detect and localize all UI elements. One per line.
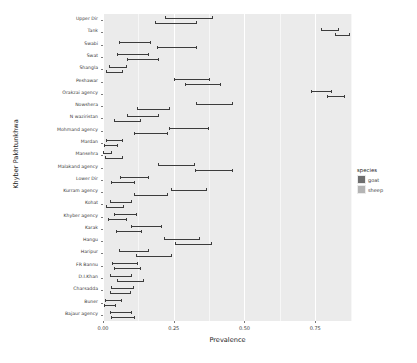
- error-bar: [104, 145, 117, 146]
- error-bar-cap: [220, 83, 221, 86]
- x-axis-tick: [103, 321, 104, 323]
- legend-label: goat: [368, 177, 379, 183]
- error-bar: [164, 239, 199, 240]
- legend-item[interactable]: sheep: [357, 185, 413, 194]
- error-bar-cap: [120, 176, 121, 179]
- error-bar: [114, 214, 137, 215]
- error-bar: [114, 268, 139, 269]
- error-bar-cap: [157, 46, 158, 49]
- error-bar-cap: [109, 65, 110, 68]
- error-bar-cap: [122, 70, 123, 73]
- error-bar-cap: [171, 254, 172, 257]
- error-bar: [112, 263, 137, 264]
- error-bar-cap: [111, 181, 112, 184]
- error-bar: [108, 219, 126, 220]
- error-bar-cap: [158, 58, 159, 61]
- y-axis-tick-label: FR Bannu: [10, 263, 98, 268]
- y-axis-tick-label: Hangu: [10, 238, 98, 243]
- error-bar-cap: [136, 254, 137, 257]
- grid-line-major: [315, 14, 316, 321]
- bar-goat: [103, 89, 321, 93]
- error-bar-cap: [158, 114, 159, 117]
- error-bar-cap: [133, 286, 134, 289]
- y-axis-tick-label: D.I.Khan: [10, 275, 98, 280]
- error-bar: [174, 79, 209, 80]
- error-bar-cap: [106, 70, 107, 73]
- error-bar: [158, 165, 193, 166]
- error-bar-cap: [119, 249, 120, 252]
- y-axis-tick-label: Swabi: [10, 42, 98, 47]
- error-bar-cap: [104, 144, 105, 147]
- x-axis-tick: [315, 321, 316, 323]
- error-bar-cap: [209, 78, 210, 81]
- legend: species goatsheep: [357, 167, 413, 195]
- error-bar: [110, 293, 130, 294]
- error-bar-cap: [112, 262, 113, 265]
- error-bar-cap: [134, 181, 135, 184]
- y-axis-tick-label: Karak: [10, 226, 98, 231]
- error-bar-cap: [158, 163, 159, 166]
- error-bar-cap: [148, 53, 149, 56]
- grid-line-minor: [280, 14, 281, 321]
- prevalence-bar-chart: Khyber Pakhtunkhwa Prevalence Upper DirT…: [0, 0, 417, 363]
- error-bar: [127, 59, 158, 60]
- error-bar-cap: [126, 65, 127, 68]
- legend-swatch-sheep: [358, 186, 365, 193]
- error-bar-cap: [114, 119, 115, 122]
- y-axis-tick-label: Khyber agency: [10, 214, 98, 219]
- y-axis-tick-label: Shangla: [10, 66, 98, 71]
- error-bar-cap: [148, 176, 149, 179]
- error-bar-cap: [110, 311, 111, 314]
- bar-goat: [103, 28, 329, 32]
- error-bar-cap: [137, 262, 138, 265]
- error-bar: [105, 300, 120, 301]
- error-bar: [111, 288, 133, 289]
- error-bar-cap: [116, 230, 117, 233]
- y-axis-tick-label: Peshawar: [10, 79, 98, 84]
- error-bar-cap: [206, 188, 207, 191]
- error-bar-cap: [199, 237, 200, 240]
- error-bar: [155, 23, 196, 24]
- y-axis-tick-label: Tank: [10, 29, 98, 34]
- y-axis-tick-label: Buner: [10, 300, 98, 305]
- error-bar-cap: [108, 218, 109, 221]
- bar-sheep: [103, 94, 335, 98]
- error-bar-cap: [114, 267, 115, 270]
- y-axis-tick-label: Haripur: [10, 250, 98, 255]
- y-axis-tick-label: Mansehra: [10, 152, 98, 157]
- error-bar: [117, 54, 148, 55]
- error-bar-cap: [143, 279, 144, 282]
- error-bar: [175, 244, 210, 245]
- error-bar: [327, 96, 344, 97]
- error-bar-cap: [232, 169, 233, 172]
- error-bar: [116, 231, 141, 232]
- legend-item[interactable]: goat: [357, 175, 413, 184]
- error-bar: [311, 91, 331, 92]
- error-bar-cap: [122, 139, 123, 142]
- error-bar-cap: [111, 316, 112, 319]
- error-bar-cap: [131, 274, 132, 277]
- error-bar-cap: [335, 33, 336, 36]
- error-bar-cap: [195, 169, 196, 172]
- error-bar-cap: [111, 151, 112, 154]
- error-bar-cap: [114, 213, 115, 216]
- error-bar-cap: [161, 225, 162, 228]
- plot-panel: [103, 14, 352, 321]
- legend-key: [357, 185, 366, 194]
- error-bar: [103, 153, 111, 154]
- error-bar: [335, 35, 349, 36]
- y-axis-tick-label: Malakand agency: [10, 165, 98, 170]
- error-bar-cap: [131, 200, 132, 203]
- error-bar-cap: [130, 291, 131, 294]
- grid-line-major: [244, 14, 245, 321]
- y-axis-tick-label: Orakzai agency: [10, 91, 98, 96]
- error-bar: [185, 84, 220, 85]
- error-bar-cap: [111, 286, 112, 289]
- error-bar-cap: [171, 188, 172, 191]
- error-bar-cap: [134, 132, 135, 135]
- error-bar-cap: [115, 304, 116, 307]
- error-bar: [157, 47, 197, 48]
- bar-sheep: [103, 33, 342, 37]
- error-bar-cap: [103, 151, 104, 154]
- error-bar: [195, 170, 232, 171]
